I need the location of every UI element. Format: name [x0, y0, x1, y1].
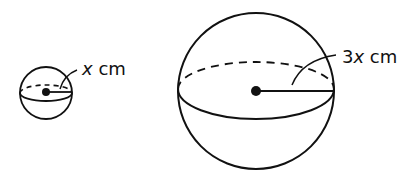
spheres-diagram: x cm 3x cm: [0, 0, 413, 185]
small-sphere-center-dot: [42, 88, 50, 96]
small-sphere: x cm: [20, 58, 126, 119]
large-sphere-radius-label: 3x cm: [342, 46, 397, 67]
large-sphere: 3x cm: [178, 13, 397, 169]
small-sphere-radius-label: x cm: [81, 58, 126, 79]
large-sphere-hidden-equator: [178, 62, 334, 89]
large-sphere-center-dot: [251, 86, 261, 96]
